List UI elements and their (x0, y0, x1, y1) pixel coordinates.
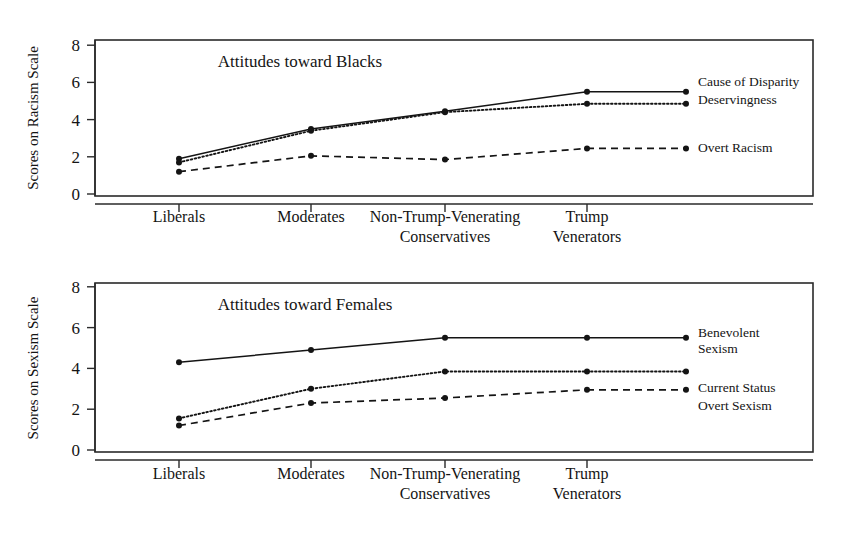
series-label-overt-sexism: Overt Sexism (698, 398, 772, 413)
data-point-marker (176, 415, 182, 421)
data-point-marker (176, 423, 182, 429)
series-label-benevolent-sexism: Sexism (698, 341, 738, 356)
data-point-marker (442, 395, 448, 401)
series-end-marker (683, 335, 689, 341)
y-axis-tick-label: 0 (72, 441, 81, 460)
x-axis-category-label: Liberals (153, 465, 205, 482)
y-axis-tick-label: 8 (72, 278, 81, 297)
x-axis-category-label: Trump (566, 465, 609, 483)
data-point-marker (308, 386, 314, 392)
data-point-marker (308, 400, 314, 406)
plot-area-frame (95, 283, 813, 452)
x-axis-category-label: Non-Trump-Venerating (370, 465, 521, 483)
series-label-benevolent-sexism: Benevolent (698, 325, 760, 340)
y-axis-title: Scores on Sexism Scale (25, 296, 41, 439)
x-axis-category-label: Conservatives (400, 485, 491, 502)
data-point-marker (442, 335, 448, 341)
y-axis-tick-label: 2 (72, 400, 81, 419)
series-end-marker (683, 368, 689, 374)
sexism-panel-svg: 02468LiberalsModeratesNon-Trump-Venerati… (0, 0, 856, 539)
chart-panel-sexism: 02468LiberalsModeratesNon-Trump-Venerati… (0, 0, 856, 539)
data-point-marker (442, 368, 448, 374)
data-point-marker (308, 347, 314, 353)
data-point-marker (176, 359, 182, 365)
y-axis-tick-label: 4 (72, 359, 81, 378)
figure-root: 02468LiberalsModeratesNon-Trump-Venerati… (0, 0, 856, 539)
x-axis-category-label: Venerators (553, 485, 621, 502)
series-end-marker (683, 387, 689, 393)
panel-title: Attitudes toward Females (218, 295, 393, 314)
x-axis-category-label: Moderates (277, 465, 345, 482)
y-axis-tick-label: 6 (72, 319, 81, 338)
series-label-current-status: Current Status (698, 380, 776, 395)
